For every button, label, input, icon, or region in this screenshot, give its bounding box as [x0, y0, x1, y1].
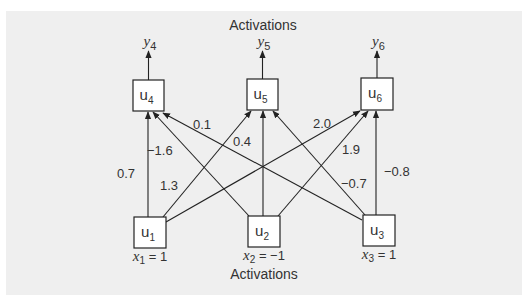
node-u3: u3x3 = 1: [361, 215, 396, 264]
edge-u1-u4: 0.7: [117, 112, 148, 217]
input-layer: u1x1 = 1u2x2 = −1u3x3 = 1: [132, 215, 396, 266]
edge-weight-label: −1.6: [147, 143, 173, 158]
node-u4: u4y4: [133, 33, 164, 111]
edge-weight-label: 0.4: [233, 134, 251, 149]
output-layer: u4y4u5y5u6y6: [133, 33, 393, 111]
input-value-label: x2 = −1: [242, 247, 285, 265]
output-label: y6: [370, 33, 385, 52]
edge-weight-label: 0.7: [117, 166, 135, 181]
edge-weight-label: 1.3: [160, 178, 178, 193]
edge-weight-label: 1.9: [342, 142, 360, 157]
node-u2: u2x2 = −1: [242, 216, 285, 265]
edge-weight-label: 2.0: [313, 116, 331, 131]
output-label: y4: [142, 33, 157, 52]
node-u5: u5y5: [247, 33, 278, 110]
input-value-label: x1 = 1: [132, 248, 167, 266]
top-activations-label: Activations: [229, 17, 297, 33]
edge-u3-u6: −0.8: [376, 111, 410, 215]
neural-network-diagram: Activations Activations 0.7−1.60.11.30.4…: [0, 0, 528, 302]
output-label: y5: [256, 33, 271, 52]
node-u6: u6y6: [361, 33, 393, 110]
edge-weight-label: −0.8: [384, 164, 410, 179]
edge-weight-label: 0.1: [193, 117, 211, 132]
weighted-edges: 0.7−1.60.11.30.4−0.72.01.9−0.8: [117, 111, 410, 222]
edge-weight-label: −0.7: [341, 176, 367, 191]
bottom-activations-label: Activations: [230, 266, 298, 282]
input-value-label: x3 = 1: [361, 246, 396, 264]
node-u1: u1x1 = 1: [132, 217, 167, 266]
